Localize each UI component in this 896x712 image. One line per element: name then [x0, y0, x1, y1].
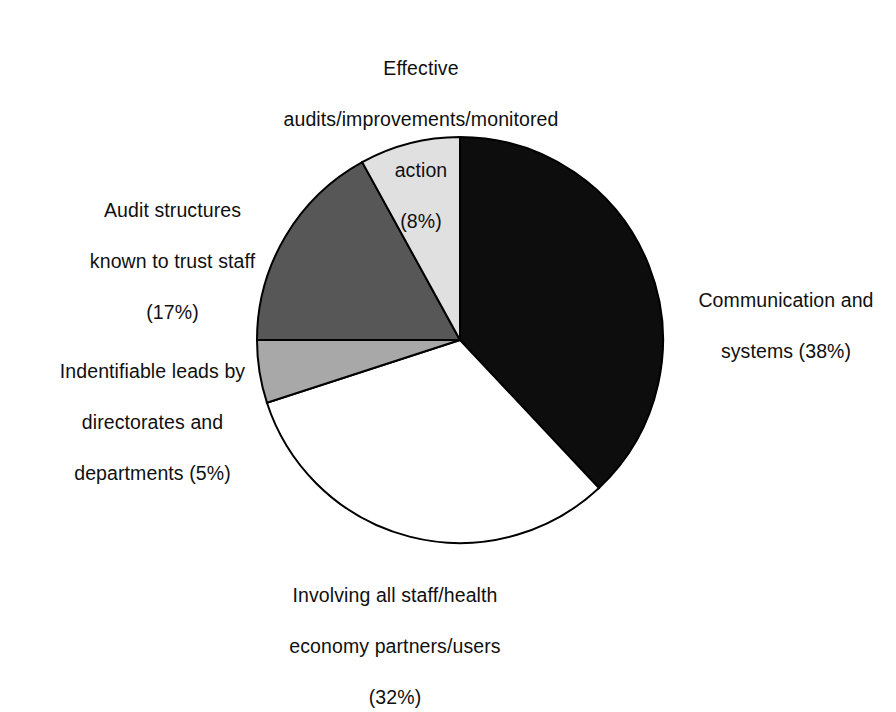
slice-label-value: (32%): [250, 685, 540, 711]
slice-label-value: (8%): [246, 209, 596, 235]
slice-label-line: Audit structures: [50, 198, 295, 224]
slice-label-communication-and-systems: Communication and systems (38%): [680, 262, 892, 390]
slice-label-value: systems (38%): [680, 339, 892, 365]
slice-label-line: economy partners/users: [250, 634, 540, 660]
slice-label-line: directorates and: [20, 410, 285, 436]
slice-label-value: (17%): [50, 300, 295, 326]
slice-label-audit-structures: Audit structures known to trust staff (1…: [50, 172, 295, 351]
slice-label-effective-audits: Effective audits/improvements/monitored …: [246, 30, 596, 260]
slice-label-line: action: [246, 158, 596, 184]
slice-label-line: audits/improvements/monitored: [246, 107, 596, 133]
slice-label-value: departments (5%): [20, 461, 285, 487]
slice-label-line: Involving all staff/health: [250, 583, 540, 609]
slice-label-involving-all-staff: Involving all staff/health economy partn…: [250, 557, 540, 712]
slice-label-line: Communication and: [680, 288, 892, 314]
slice-label-line: Indentifiable leads by: [20, 359, 285, 385]
slice-label-indentifiable-leads: Indentifiable leads by directorates and …: [20, 333, 285, 512]
slice-label-line: known to trust staff: [50, 249, 295, 275]
slice-label-line: Effective: [246, 56, 596, 82]
